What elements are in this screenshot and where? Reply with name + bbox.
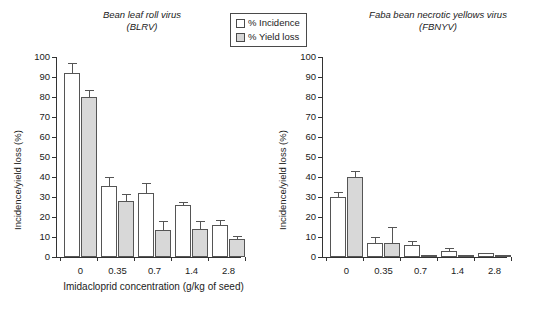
- error-cap-fbnyv-yield-loss-0.35: [388, 227, 397, 228]
- error-bar-blrv-incidence-0: [72, 63, 73, 73]
- y-tick-fbnyv-70: [318, 117, 322, 118]
- y-tick-fbnyv-40: [318, 177, 322, 178]
- x-minor-tick-fbnyv-1a: [363, 257, 364, 261]
- bar-fbnyv-yield-loss-0.7: [421, 255, 437, 257]
- y-tick-fbnyv-20: [318, 217, 322, 218]
- bar-blrv-yield-loss-0.35: [118, 201, 134, 257]
- y-tick-label-blrv-0: 0: [45, 252, 50, 262]
- x-tick-label-blrv-0.35: 0.35: [108, 265, 127, 276]
- y-tick-label-fbnyv-30: 30: [305, 192, 316, 202]
- legend-label-incidence: % Incidence: [248, 17, 300, 29]
- legend-label-yield-loss: % Yield loss: [248, 31, 299, 43]
- y-tick-blrv-40: [52, 177, 56, 178]
- x-axis-line-right: [322, 257, 507, 258]
- plot-area-blrv: 010203040506070809010000.350.71.42.8: [56, 57, 241, 257]
- legend-item-incidence: % Incidence: [236, 17, 300, 29]
- y-tick-fbnyv-30: [318, 197, 322, 198]
- x-tick-label-blrv-1.4: 1.4: [185, 265, 198, 276]
- error-cap-blrv-incidence-0.35: [105, 177, 114, 178]
- error-cap-fbnyv-incidence-0.7: [408, 241, 417, 242]
- figure-root: Bean leaf roll virus (BLRV) Faba bean ne…: [0, 0, 541, 311]
- x-tick-label-fbnyv-0.35: 0.35: [374, 265, 393, 276]
- x-minor-tick-fbnyv-4a: [474, 257, 475, 261]
- y-tick-blrv-70: [52, 117, 56, 118]
- error-cap-fbnyv-yield-loss-0: [351, 171, 360, 172]
- error-bar-blrv-yield-loss-0.35: [126, 194, 127, 201]
- bar-blrv-incidence-1.4: [175, 205, 191, 257]
- panel-title-blrv: Bean leaf roll virus (BLRV): [72, 9, 212, 32]
- y-tick-blrv-50: [52, 157, 56, 158]
- error-cap-blrv-yield-loss-0: [85, 90, 94, 91]
- panel-title-fbnyv-line2: (FBNYV): [343, 21, 533, 33]
- x-axis-title: Imidacloprid concentration (g/kg of seed…: [0, 281, 541, 292]
- error-cap-blrv-yield-loss-1.4: [196, 221, 205, 222]
- y-tick-blrv-20: [52, 217, 56, 218]
- x-tick-label-blrv-2.8: 2.8: [222, 265, 235, 276]
- panel-title-fbnyv: Faba bean necrotic yellows virus (FBNYV): [343, 9, 533, 32]
- plot-area-fbnyv: 010203040506070809010000.350.71.42.8: [322, 57, 507, 257]
- x-tick-label-blrv-0.7: 0.7: [148, 265, 161, 276]
- error-bar-fbnyv-yield-loss-0.35: [392, 227, 393, 243]
- x-axis-line-left: [56, 257, 241, 258]
- y-tick-blrv-90: [52, 77, 56, 78]
- y-tick-blrv-60: [52, 137, 56, 138]
- y-tick-blrv-100: [52, 57, 56, 58]
- error-cap-blrv-yield-loss-0.7: [159, 221, 168, 222]
- y-tick-label-blrv-60: 60: [39, 132, 50, 142]
- y-tick-blrv-30: [52, 197, 56, 198]
- x-tick-label-fbnyv-0: 0: [344, 265, 349, 276]
- bar-blrv-yield-loss-1.4: [192, 229, 208, 257]
- y-tick-fbnyv-50: [318, 157, 322, 158]
- y-tick-label-blrv-10: 10: [39, 232, 50, 242]
- y-tick-label-fbnyv-20: 20: [305, 212, 316, 222]
- y-tick-fbnyv-0: [318, 257, 322, 258]
- y-tick-label-blrv-50: 50: [39, 152, 50, 162]
- x-tick-label-fbnyv-1.4: 1.4: [451, 265, 464, 276]
- error-cap-fbnyv-incidence-1.4: [445, 248, 454, 249]
- error-cap-blrv-incidence-0.7: [142, 183, 151, 184]
- error-bar-blrv-yield-loss-0: [89, 90, 90, 97]
- y-tick-fbnyv-80: [318, 97, 322, 98]
- y-tick-label-blrv-100: 100: [34, 52, 50, 62]
- x-minor-tick-fbnyv-3a: [437, 257, 438, 261]
- bar-fbnyv-yield-loss-0.35: [384, 243, 400, 257]
- x-minor-tick-fbnyv-4b: [511, 257, 512, 261]
- y-tick-fbnyv-100: [318, 57, 322, 58]
- x-tick-label-fbnyv-0.7: 0.7: [414, 265, 427, 276]
- error-cap-fbnyv-incidence-0: [334, 192, 343, 193]
- bar-fbnyv-incidence-2.8: [478, 253, 494, 257]
- y-tick-blrv-10: [52, 237, 56, 238]
- y-tick-fbnyv-90: [318, 77, 322, 78]
- y-axis-title-left: Incidence/yield loss (%): [12, 130, 23, 230]
- error-cap-blrv-incidence-2.8: [216, 220, 225, 221]
- error-cap-blrv-incidence-0: [68, 63, 77, 64]
- error-bar-blrv-yield-loss-1.4: [200, 221, 201, 229]
- panel-title-blrv-line1: Bean leaf roll virus: [72, 9, 212, 21]
- bar-fbnyv-incidence-0.7: [404, 245, 420, 257]
- y-axis-line-left: [56, 57, 57, 258]
- y-axis-title-right: Incidence/yield loss (%): [277, 130, 288, 230]
- y-tick-label-blrv-40: 40: [39, 172, 50, 182]
- bar-blrv-yield-loss-0.7: [155, 230, 171, 257]
- chart-legend: % Incidence % Yield loss: [230, 13, 307, 47]
- x-minor-tick-blrv-0a: [60, 257, 61, 261]
- bar-blrv-incidence-0: [64, 73, 80, 257]
- y-axis-line-right: [322, 57, 323, 258]
- y-tick-label-fbnyv-40: 40: [305, 172, 316, 182]
- bar-fbnyv-yield-loss-1.4: [458, 255, 474, 257]
- y-tick-label-fbnyv-70: 70: [305, 112, 316, 122]
- error-bar-blrv-incidence-0.35: [109, 177, 110, 186]
- bar-fbnyv-incidence-0: [330, 197, 346, 257]
- x-minor-tick-blrv-2a: [134, 257, 135, 261]
- x-minor-tick-fbnyv-0a: [326, 257, 327, 261]
- y-tick-label-fbnyv-80: 80: [305, 92, 316, 102]
- bar-fbnyv-yield-loss-0: [347, 177, 363, 257]
- error-cap-fbnyv-incidence-0.35: [371, 237, 380, 238]
- error-bar-blrv-incidence-0.7: [146, 183, 147, 193]
- x-minor-tick-blrv-3a: [171, 257, 172, 261]
- y-tick-label-fbnyv-0: 0: [311, 252, 316, 262]
- y-tick-blrv-0: [52, 257, 56, 258]
- bar-blrv-incidence-2.8: [212, 225, 228, 257]
- bar-fbnyv-yield-loss-2.8: [495, 255, 511, 257]
- bar-fbnyv-incidence-0.35: [367, 243, 383, 257]
